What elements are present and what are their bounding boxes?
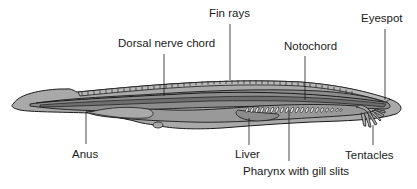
label-eyespot: Eyespot xyxy=(361,13,403,25)
label-fin-rays: Fin rays xyxy=(209,8,250,20)
label-notochord: Notochord xyxy=(284,41,337,53)
label-tentacles: Tentacles xyxy=(345,150,394,162)
lancelet-diagram: Fin rays Eyespot Dorsal nerve chord Noto… xyxy=(0,0,417,189)
label-pharynx-with-gill-slits: Pharynx with gill slits xyxy=(243,166,349,178)
label-dorsal-nerve-chord: Dorsal nerve chord xyxy=(118,38,215,50)
label-anus: Anus xyxy=(72,149,98,161)
label-liver: Liver xyxy=(235,149,260,161)
atriopore xyxy=(153,122,163,128)
